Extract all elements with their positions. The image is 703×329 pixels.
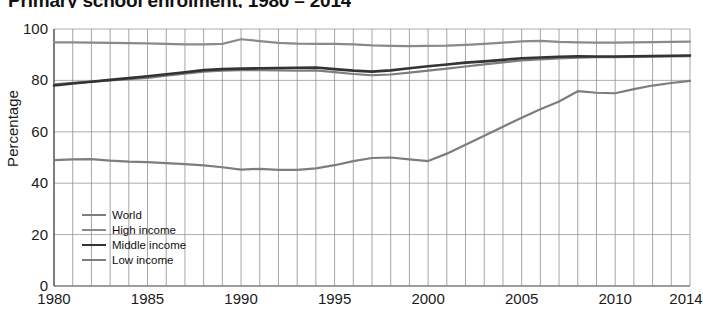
chart-title: Primary school enrolment, 1980 – 2014	[8, 0, 351, 8]
x-tick-label: 1985	[131, 290, 164, 307]
y-tick-label: 80	[14, 72, 48, 87]
chart-legend: WorldHigh incomeMiddle incomeLow income	[82, 208, 186, 268]
legend-swatch-icon	[82, 214, 106, 216]
x-tick-label: 2010	[598, 290, 631, 307]
legend-label: Low income	[112, 254, 173, 266]
x-tick-label: 2014	[669, 290, 702, 307]
x-tick-label: 2000	[411, 290, 444, 307]
legend-item: Low income	[82, 253, 186, 267]
legend-swatch-icon	[82, 244, 106, 246]
legend-label: High income	[112, 224, 176, 236]
y-tick-label: 100	[14, 21, 48, 36]
x-tick-label: 1995	[318, 290, 351, 307]
x-tick-label: 1980	[37, 290, 70, 307]
x-tick-label: 2005	[505, 290, 538, 307]
legend-label: World	[112, 209, 142, 221]
legend-label: Middle income	[112, 239, 186, 251]
y-axis-tick-labels: 020406080100	[0, 0, 48, 329]
y-tick-label: 20	[14, 227, 48, 242]
legend-item: High income	[82, 223, 186, 237]
x-tick-label: 1990	[224, 290, 257, 307]
y-tick-label: 40	[14, 175, 48, 190]
legend-swatch-icon	[82, 229, 106, 231]
legend-item: World	[82, 208, 186, 222]
legend-swatch-icon	[82, 259, 106, 261]
legend-item: Middle income	[82, 238, 186, 252]
y-tick-label: 60	[14, 124, 48, 139]
